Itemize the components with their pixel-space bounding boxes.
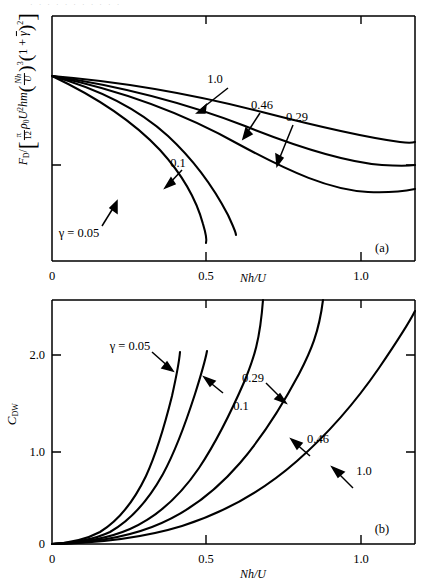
panel-b-frame <box>52 300 415 544</box>
panel-b-xtick-1.0: 1.0 <box>353 552 369 566</box>
curve-b-gamma-1.0 <box>52 311 415 544</box>
panel-a-xtick-0.5: 0.5 <box>198 269 214 283</box>
panel-b-ytick-1.0: 1.0 <box>29 445 45 459</box>
panel-b-y-ticks-right <box>406 355 415 452</box>
curve-b-gamma-0.1 <box>52 351 207 544</box>
panel-a-xtick-1.0: 1.0 <box>353 269 369 283</box>
curve-label-b-0.1: 0.1 <box>233 399 249 413</box>
panel-a-xtick-0: 0 <box>49 269 55 283</box>
panel-a-x-ticks-top <box>206 16 361 24</box>
panel-a: 1.0 0.46 0.29 0.1 γ = 0.05 (a) 0 0.5 1.0… <box>49 16 415 285</box>
panel-a-x-axis-label: Nh/U <box>239 271 267 285</box>
curve-label-a-0.46: 0.46 <box>251 98 273 112</box>
curve-b-gamma-0.29 <box>52 300 263 544</box>
curve-b-gamma-0.05 <box>52 352 180 544</box>
plot-canvas: 1.0 0.46 0.29 0.1 γ = 0.05 (a) 0 0.5 1.0… <box>0 0 427 584</box>
curve-label-a-gamma-0.05: γ = 0.05 <box>58 226 100 240</box>
panel-b-y-ticks <box>52 355 61 544</box>
panel-a-x-ticks <box>206 252 361 261</box>
curve-label-a-1.0: 1.0 <box>207 72 223 86</box>
curve-label-b-0.29: 0.29 <box>242 371 264 385</box>
panel-b-x-ticks-top <box>206 300 361 308</box>
curve-b-gamma-0.46 <box>52 300 323 544</box>
panel-b-ytick-2.0: 2.0 <box>29 348 45 362</box>
panel-b-tag: (b) <box>375 522 390 536</box>
figure-root: · · · · · · · · · · · FD/[π12ρ0U2hm(NhU)… <box>0 0 427 584</box>
panel-b: γ = 0.05 0.29 0.1 0.46 1.0 (b) 2.0 1.0 0… <box>29 300 415 581</box>
curve-label-a-0.29: 0.29 <box>286 110 308 124</box>
panel-b-x-axis-label: Nh/U <box>239 567 267 581</box>
panel-a-frame <box>52 16 415 261</box>
panel-b-ytick-0: 0 <box>39 537 45 551</box>
curve-label-b-0.46: 0.46 <box>307 432 329 446</box>
panel-a-tag: (a) <box>375 241 389 255</box>
panel-b-x-ticks <box>206 535 361 544</box>
panel-b-xtick-0: 0 <box>49 552 55 566</box>
panel-b-xtick-0.5: 0.5 <box>198 552 214 566</box>
curve-label-a-0.1: 0.1 <box>170 156 186 170</box>
curve-label-b-1.0: 1.0 <box>356 464 372 478</box>
curve-label-b-gamma-0.05: γ = 0.05 <box>109 339 151 353</box>
